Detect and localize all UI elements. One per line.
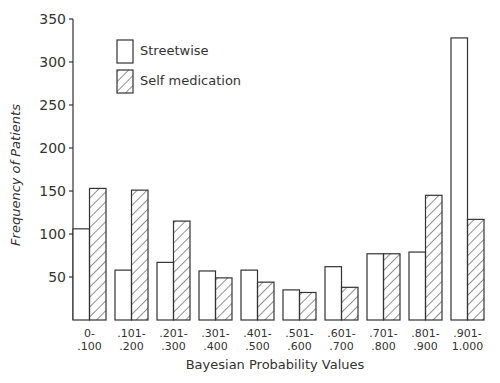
bar-self-medication (258, 282, 275, 320)
bar-group (73, 188, 106, 320)
legend: Streetwise Self medication (117, 40, 241, 93)
x-tick-label: .401- (243, 327, 271, 340)
legend-label-streetwise: Streetwise (140, 43, 209, 58)
bar-group (325, 267, 358, 320)
legend-swatch-self-medication (117, 70, 133, 93)
legend-label-self-medication: Self medication (140, 73, 241, 88)
bar-self-medication (216, 278, 233, 320)
bar-streetwise (451, 38, 468, 320)
x-tick-label: .201- (159, 327, 187, 340)
y-axis-title: Frequency of Patients (8, 104, 23, 246)
x-tick-label: .100 (77, 340, 102, 353)
y-tick-label: 150 (39, 183, 66, 199)
bar-streetwise (199, 271, 216, 320)
legend-swatch-streetwise (117, 40, 133, 63)
bar-streetwise (73, 229, 90, 320)
x-tick-label: .701- (369, 327, 397, 340)
y-tick-label: 100 (39, 226, 66, 242)
x-tick-label: .800 (371, 340, 396, 353)
bar-streetwise (367, 254, 384, 320)
bar-streetwise (283, 290, 300, 320)
x-tick-label: 0- (84, 327, 95, 340)
x-tick-label: .300 (161, 340, 186, 353)
bar-self-medication (342, 287, 359, 320)
bar-self-medication (384, 254, 401, 320)
x-tick-label: .101- (117, 327, 145, 340)
bar-self-medication (174, 221, 191, 320)
bar-group (451, 38, 484, 320)
bar-self-medication (90, 188, 107, 320)
bar-self-medication (300, 292, 317, 320)
bar-chart: 50100150200250300350 0-.100.101-.200.201… (0, 0, 500, 383)
bar-group (409, 195, 442, 320)
x-tick-label: .600 (287, 340, 312, 353)
bar-group (199, 271, 232, 320)
chart-canvas: 50100150200250300350 0-.100.101-.200.201… (0, 0, 500, 383)
x-axis-title: Bayesian Probability Values (186, 357, 365, 372)
x-tick-label: .400 (203, 340, 228, 353)
x-tick-label: 1.000 (452, 340, 484, 353)
y-tick-label: 200 (39, 140, 66, 156)
x-tick-label: .500 (245, 340, 270, 353)
bar-group (367, 254, 400, 320)
y-tick-label: 350 (39, 11, 66, 27)
x-tick-label: .301- (201, 327, 229, 340)
y-tick-label: 50 (48, 269, 66, 285)
x-tick-label: .901- (453, 327, 481, 340)
bar-group (283, 290, 316, 320)
x-tick-label: .700 (329, 340, 354, 353)
x-axis-tick-labels: 0-.100.101-.200.201-.300.301-.400.401-.5… (77, 327, 483, 353)
bar-groups (73, 38, 484, 320)
bar-self-medication (426, 195, 443, 320)
y-tick-label: 300 (39, 54, 66, 70)
bar-group (157, 221, 190, 320)
x-tick-label: .601- (327, 327, 355, 340)
x-tick-label: .501- (285, 327, 313, 340)
y-tick-label: 250 (39, 97, 66, 113)
x-tick-label: .801- (411, 327, 439, 340)
x-tick-label: .200 (119, 340, 144, 353)
y-axis: 50100150200250300350 (39, 11, 73, 320)
bar-group (241, 270, 274, 320)
bar-streetwise (157, 262, 174, 320)
bar-self-medication (132, 190, 149, 320)
bar-group (115, 190, 148, 320)
bar-self-medication (468, 219, 485, 320)
bar-streetwise (409, 252, 426, 320)
bar-streetwise (241, 270, 258, 320)
bar-streetwise (115, 270, 132, 320)
x-tick-label: .900 (413, 340, 438, 353)
bar-streetwise (325, 267, 342, 320)
